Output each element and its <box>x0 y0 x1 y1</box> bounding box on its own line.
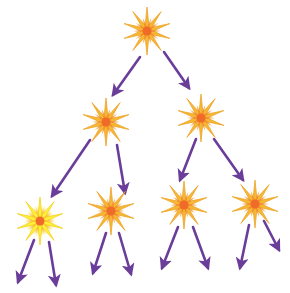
arrow-n6-12 <box>240 225 249 268</box>
arrow-n1-3 <box>117 145 125 193</box>
arrow-n5-11 <box>193 227 208 268</box>
starburst-icon <box>232 180 278 228</box>
starburst-icon <box>88 187 134 235</box>
arrow-n0-0 <box>113 57 140 95</box>
arrow-n4-9 <box>119 233 131 274</box>
arrow-n1-2 <box>52 140 90 196</box>
branching-diagram <box>0 0 290 293</box>
arrow-n0-1 <box>164 52 189 88</box>
arrow-n3-6 <box>18 240 34 282</box>
starburst-icon <box>124 7 170 55</box>
arrow-n4-8 <box>93 233 106 273</box>
arrow-n2-5 <box>214 139 243 180</box>
starburst-icon <box>17 197 63 245</box>
starburst-icon <box>161 181 207 229</box>
arrow-n2-4 <box>180 139 196 180</box>
arrows-layer <box>18 52 279 285</box>
arrow-n3-7 <box>49 242 56 285</box>
diagram-canvas <box>0 0 290 293</box>
stars-layer <box>17 7 278 245</box>
starburst-icon <box>178 94 224 142</box>
arrow-n5-10 <box>162 227 178 268</box>
arrow-n6-13 <box>264 221 279 250</box>
